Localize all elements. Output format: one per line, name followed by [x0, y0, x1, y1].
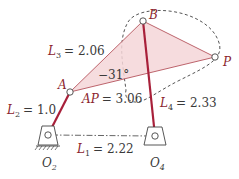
joint-a [67, 89, 73, 95]
ground-pivot-o2 [35, 126, 60, 150]
joint-b [140, 18, 146, 24]
four-bar-linkage-diagram: A B P O2 O4 L3= 2.06 L2= 1.0 L1= 2.22 L4… [0, 0, 239, 179]
ground-pivot-o4 [144, 127, 166, 145]
label-l2: L2= 1.0 [6, 103, 56, 119]
label-l3: L3= 2.06 [47, 44, 105, 60]
label-ap: AP= 3.06 [81, 92, 142, 106]
label-a: A [57, 78, 67, 92]
label-b: B [148, 8, 158, 22]
label-o2: O2 [42, 156, 57, 172]
label-coupler-angle: −31° [98, 68, 129, 82]
label-l4: L4= 2.33 [159, 96, 217, 112]
label-l1: L1= 2.22 [76, 142, 134, 158]
ground-link-l1 [52, 135, 150, 136]
label-o4: O4 [150, 156, 165, 172]
label-p: P [222, 55, 232, 69]
coupler-point-p [212, 54, 218, 60]
